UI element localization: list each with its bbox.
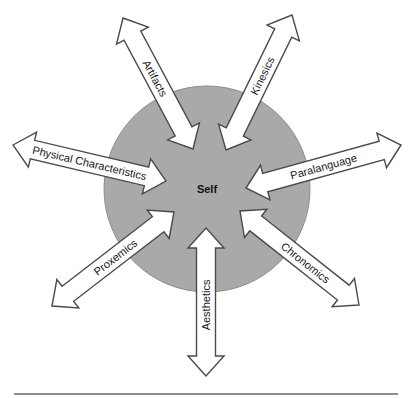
nonverbal-communication-diagram: Self ArtifactsKinesicsPhysical Character… <box>0 0 410 398</box>
arrow-label: Chronomics <box>279 240 333 286</box>
arrow-label: Aesthetics <box>200 279 212 330</box>
self-label: Self <box>197 183 218 195</box>
